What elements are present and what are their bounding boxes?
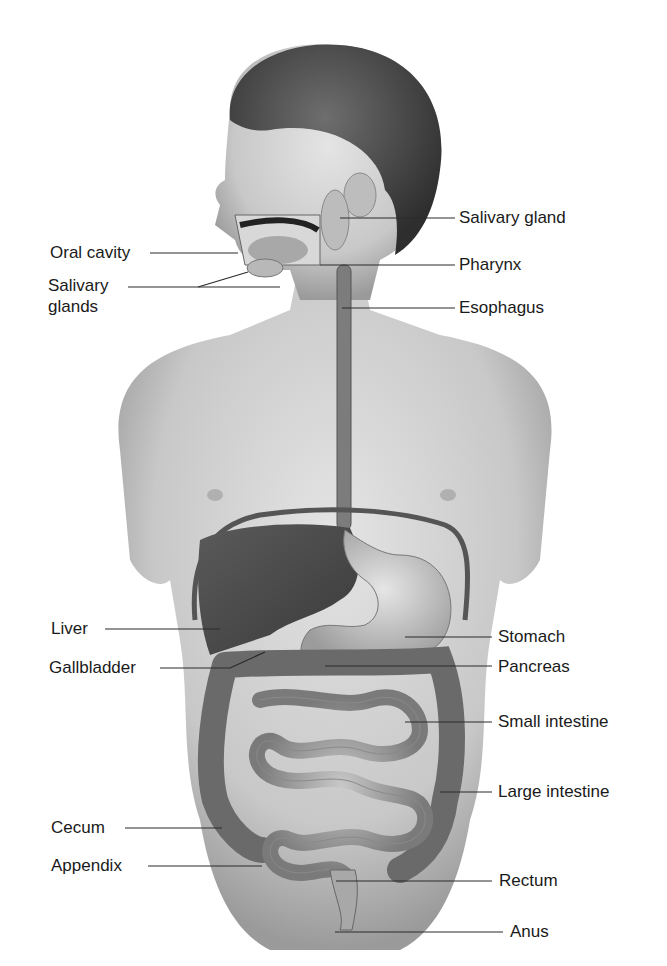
label-salivary-glands-line1: Salivary [48, 276, 108, 296]
label-salivary-glands-line2: glands [48, 297, 98, 317]
label-cecum: Cecum [51, 818, 105, 838]
label-stomach: Stomach [498, 627, 565, 647]
label-esophagus: Esophagus [459, 298, 544, 318]
label-pharynx: Pharynx [459, 255, 521, 275]
label-appendix: Appendix [51, 856, 122, 876]
label-anus: Anus [510, 922, 549, 942]
label-rectum: Rectum [499, 871, 558, 891]
label-gallbladder: Gallbladder [49, 658, 136, 678]
label-liver: Liver [51, 619, 88, 639]
label-small-intestine: Small intestine [498, 712, 609, 732]
label-large-intestine: Large intestine [498, 782, 610, 802]
label-salivary-gland: Salivary gland [459, 208, 566, 228]
label-oral-cavity: Oral cavity [50, 243, 130, 263]
esophagus-shape [337, 265, 351, 530]
label-pancreas: Pancreas [498, 657, 570, 677]
head [215, 44, 442, 300]
digestive-system-diagram: Oral cavity Salivary glands Liver Gallbl… [0, 0, 667, 966]
